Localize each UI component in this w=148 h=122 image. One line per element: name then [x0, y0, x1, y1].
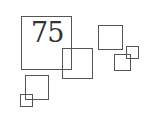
medium-square-center	[62, 48, 93, 79]
square-bottom-left-small	[20, 94, 33, 107]
square-top-right	[98, 25, 123, 50]
square-right-small	[126, 46, 139, 59]
number-label: 75	[31, 19, 63, 46]
diagram-canvas: 75	[0, 0, 148, 122]
